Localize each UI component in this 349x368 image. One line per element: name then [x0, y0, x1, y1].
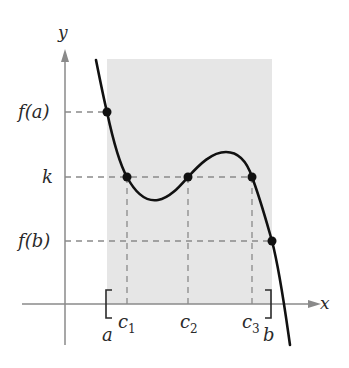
fb-label: f(b)	[16, 230, 50, 251]
c2-label: c2	[180, 311, 198, 336]
point-fa	[103, 108, 112, 117]
shaded-interval-region	[107, 59, 272, 304]
point-c2	[184, 173, 193, 182]
fa-label: f(a)	[16, 101, 49, 122]
c3-label: c3	[242, 311, 260, 336]
point-fb	[268, 237, 277, 246]
ivt-diagram: y x f(a) k f(b) a b c1 c2 c3	[0, 0, 349, 368]
a-label: a	[102, 324, 113, 345]
y-axis-label: y	[57, 22, 68, 42]
point-c3	[248, 173, 257, 182]
k-label: k	[42, 166, 53, 187]
c1-label: c1	[118, 311, 136, 336]
point-c1	[123, 173, 132, 182]
y-axis-arrow-icon	[61, 49, 69, 62]
x-axis-label: x	[320, 293, 330, 313]
b-label: b	[263, 324, 275, 345]
